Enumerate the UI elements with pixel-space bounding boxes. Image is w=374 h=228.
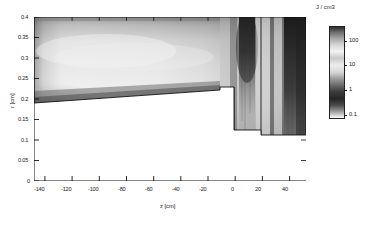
x-tick-label-m120: -120: [61, 186, 71, 192]
y-tick-label-0p4: 0.4: [21, 14, 28, 20]
x-tick-label-20: 20: [255, 186, 261, 192]
colorbar-gradient: [330, 27, 344, 118]
x-tick-label-m140: -140: [34, 186, 44, 192]
x-tick-label-m80: -80: [118, 186, 126, 192]
y-tick-label-0p1: 0.1: [21, 137, 28, 143]
y-tick-label-0p15: 0.15: [18, 116, 28, 122]
axis-frame: [34, 17, 306, 181]
x-tick-label-m20: -20: [199, 186, 207, 192]
colorbar-tick-10: [344, 65, 347, 66]
y-tick-label-0: 0: [27, 178, 30, 184]
colorbar-label-100: 100: [349, 37, 358, 43]
colorbar-label-1: 1: [349, 86, 352, 92]
x-tick-label-m60: -60: [145, 186, 153, 192]
figure-root: J / cm3 r [cm] z [cm]: [0, 0, 374, 228]
colorbar-tick-1: [344, 90, 347, 91]
colorbar-label-10: 10: [349, 61, 355, 67]
colorbar-label-0p1: 0.1: [349, 111, 357, 117]
colorbar-tick-100: [344, 41, 347, 42]
y-tick-label-0p05: 0.05: [18, 157, 28, 163]
colorbar: 100 10 1 0.1: [329, 26, 345, 119]
colorbar-tick-0p1: [344, 115, 347, 116]
plot-area: [34, 17, 306, 181]
colorbar-strip: [329, 26, 345, 119]
y-tick-label-0p2: 0.2: [21, 96, 28, 102]
x-axis-title: z [cm]: [160, 203, 175, 209]
x-tick-marks-top: [72, 17, 208, 21]
y-tick-label-0p35: 0.35: [18, 34, 28, 40]
y-tick-marks-right: [301, 140, 306, 161]
colorbar-title: J / cm3: [316, 4, 335, 10]
x-tick-label-m100: -100: [88, 186, 98, 192]
y-axis-title: r [cm]: [9, 94, 15, 109]
y-tick-marks: [34, 17, 39, 181]
x-tick-marks: [45, 176, 290, 181]
y-tick-label-0p25: 0.25: [18, 75, 28, 81]
x-tick-label-m40: -40: [172, 186, 180, 192]
x-tick-label-40: 40: [282, 186, 288, 192]
y-tick-label-0p3: 0.3: [21, 55, 28, 61]
x-tick-label-0: 0: [231, 186, 234, 192]
